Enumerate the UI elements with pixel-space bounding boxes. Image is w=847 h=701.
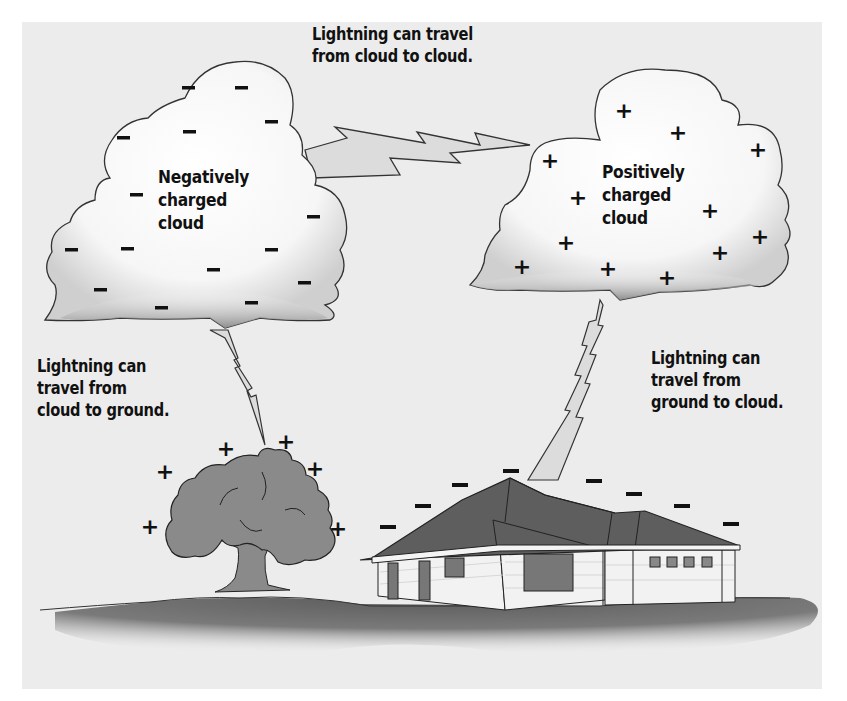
lightning-bolt-icon (305, 127, 530, 178)
svg-text:+: + (669, 120, 687, 145)
svg-text:+: + (277, 429, 295, 454)
svg-text:+: + (615, 98, 633, 123)
svg-text:+: + (141, 514, 159, 539)
tree-icon: +++ +++ (141, 429, 347, 592)
svg-text:+: + (701, 198, 719, 223)
label-cloud-to-ground: Lightning can travel from cloud to groun… (37, 355, 169, 421)
svg-text:+: + (306, 456, 324, 481)
svg-text:+: + (557, 230, 575, 255)
label-cloud-to-cloud: Lightning can travel from cloud to cloud… (312, 23, 473, 67)
svg-text:+: + (217, 436, 235, 461)
svg-text:+: + (329, 516, 347, 541)
svg-text:+: + (513, 254, 531, 279)
house-icon (360, 469, 740, 610)
svg-text:+: + (749, 137, 767, 162)
svg-text:+: + (751, 224, 769, 249)
svg-text:+: + (711, 240, 729, 265)
svg-text:+: + (541, 148, 559, 173)
svg-text:+: + (658, 265, 676, 290)
label-positive-cloud: Positively charged cloud (602, 160, 685, 229)
lightning-bolt-icon (528, 300, 603, 480)
label-negative-cloud: Negatively charged cloud (158, 165, 249, 234)
svg-text:+: + (569, 185, 587, 210)
lightning-bolt-icon (210, 330, 265, 445)
svg-text:+: + (156, 459, 174, 484)
svg-text:+: + (599, 256, 617, 281)
label-ground-to-cloud: Lightning can travel from ground to clou… (651, 347, 783, 413)
